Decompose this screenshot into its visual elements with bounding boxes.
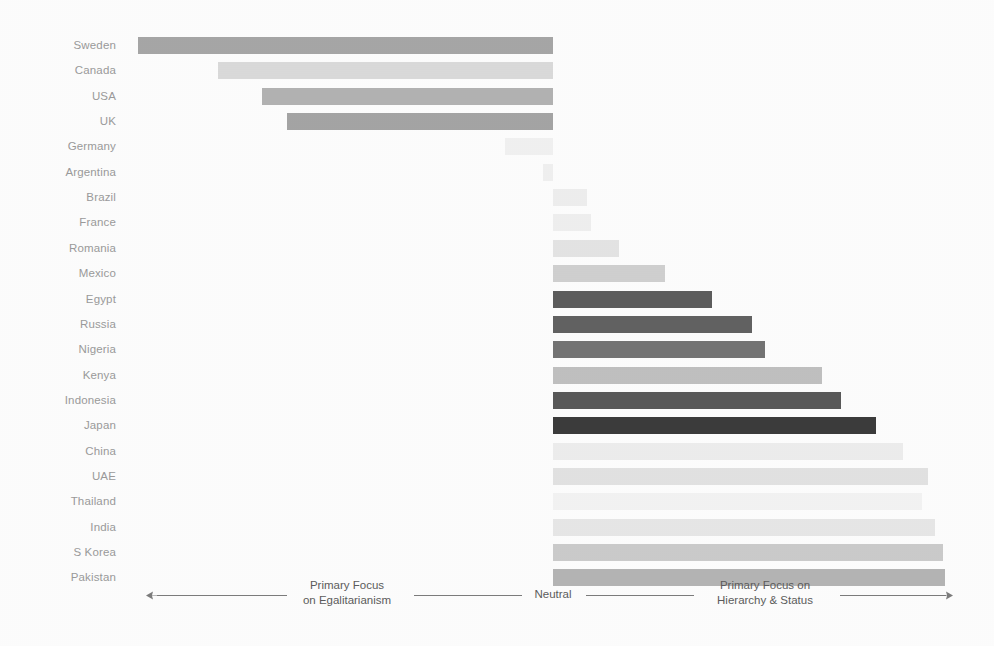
chart-row: Thailand [0,493,994,510]
chart-bar [553,392,841,409]
chart-row: Germany [0,138,994,155]
chart-row: Sweden [0,37,994,54]
chart-row: Nigeria [0,341,994,358]
chart-row: Japan [0,417,994,434]
axis-line-center-left [414,595,522,596]
chart-row: France [0,214,994,231]
country-label: Germany [0,136,116,156]
chart-bar [553,341,765,358]
country-label: UAE [0,466,116,486]
chart-bar [553,189,587,206]
country-label: Indonesia [0,390,116,410]
chart-bar [553,417,876,434]
chart-bar [553,443,903,460]
country-label: Canada [0,60,116,80]
chart-row: Russia [0,316,994,333]
country-label: Kenya [0,365,116,385]
chart-row: Mexico [0,265,994,282]
country-label: S Korea [0,542,116,562]
chart-bar [218,62,553,79]
axis-label-left: Primary Focus on Egalitarianism [288,578,406,608]
chart-row: Egypt [0,291,994,308]
chart-row: Brazil [0,189,994,206]
arrow-right-icon [940,589,953,602]
chart-bar [553,240,619,257]
country-label: France [0,212,116,232]
axis-label-left-line1: Primary Focus [288,578,406,593]
chart-row: India [0,519,994,536]
country-label: China [0,441,116,461]
chart-bar [138,37,553,54]
country-label: Thailand [0,491,116,511]
chart-scale-axis: Primary Focus on Egalitarianism Neutral … [0,566,994,636]
country-label: India [0,517,116,537]
axis-label-left-line2: on Egalitarianism [288,593,406,608]
chart-row: USA [0,88,994,105]
country-label: UK [0,111,116,131]
country-label: Japan [0,415,116,435]
axis-label-right: Primary Focus on Hierarchy & Status [696,578,834,608]
chart-row: Kenya [0,367,994,384]
country-label: USA [0,86,116,106]
chart-row: Romania [0,240,994,257]
country-label: Mexico [0,263,116,283]
chart-bar [543,164,553,181]
chart-row: Canada [0,62,994,79]
chart-bar [553,291,712,308]
country-label: Egypt [0,289,116,309]
chart-bar [553,316,752,333]
chart-row: S Korea [0,544,994,561]
chart-row: UAE [0,468,994,485]
country-label: Romania [0,238,116,258]
chart-row: Indonesia [0,392,994,409]
country-label: Argentina [0,162,116,182]
country-label: Brazil [0,187,116,207]
chart-bar [287,113,553,130]
chart-row: Argentina [0,164,994,181]
chart-bar [553,519,935,536]
chart-bar [553,493,922,510]
chart-bar [553,214,591,231]
chart-bar [553,367,822,384]
diverging-bar-chart: SwedenCanadaUSAUKGermanyArgentinaBrazilF… [0,0,994,646]
chart-bar [553,265,665,282]
axis-label-center: Neutral [524,587,582,602]
country-label: Sweden [0,35,116,55]
axis-line-left [157,595,287,596]
chart-bar [553,544,943,561]
axis-label-right-line2: Hierarchy & Status [696,593,834,608]
country-label: Russia [0,314,116,334]
chart-row: UK [0,113,994,130]
axis-line-right [840,595,946,596]
axis-label-right-line1: Primary Focus on [696,578,834,593]
chart-row: China [0,443,994,460]
axis-line-center-right [586,595,694,596]
chart-bar [262,88,553,105]
chart-plot-area: SwedenCanadaUSAUKGermanyArgentinaBrazilF… [0,0,994,560]
chart-bar [553,468,928,485]
chart-bar [505,138,553,155]
country-label: Nigeria [0,339,116,359]
